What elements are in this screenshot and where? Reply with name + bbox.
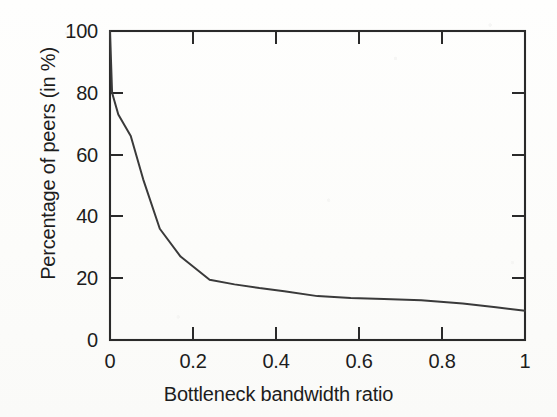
x-tick-label-0-8: 0.8 bbox=[428, 350, 455, 373]
y-axis-ticks bbox=[110, 93, 525, 278]
x-tick-label-0-6: 0.6 bbox=[345, 350, 372, 373]
data-series-line bbox=[110, 31, 525, 311]
y-tick-label-0: 0 bbox=[38, 329, 98, 352]
x-axis-title: Bottleneck bandwidth ratio bbox=[0, 383, 557, 406]
x-tick-label-0-4: 0.4 bbox=[262, 350, 289, 373]
x-tick-label-0-2: 0.2 bbox=[179, 350, 206, 373]
chart-figure: 100 80 60 40 20 0 0 0.2 0.4 0.6 0.8 1 Bo… bbox=[0, 0, 557, 417]
x-tick-label-0: 0 bbox=[105, 350, 116, 373]
y-axis-title: Percentage of peers (in %) bbox=[37, 14, 60, 314]
x-tick-label-1: 1 bbox=[520, 350, 531, 373]
x-axis-ticks bbox=[193, 31, 442, 340]
axes-frame bbox=[110, 31, 525, 340]
